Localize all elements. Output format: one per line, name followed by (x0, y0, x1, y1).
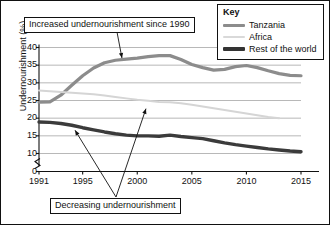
x-tick-label-2000: 2000 (120, 177, 154, 186)
chart-figure: Undernourishment (%) 010152025303540 199… (0, 0, 330, 225)
y-tick-labels: 010152025303540 (1, 1, 37, 225)
y-tick-label-15: 15 (3, 131, 37, 140)
series-line-rest-of-the-world (39, 122, 301, 152)
callout-decreasing-undernourishment: Decreasing undernourishment (50, 198, 181, 214)
axis-lines (37, 45, 319, 172)
y-tick-label-20: 20 (3, 113, 37, 122)
legend-items: TanzaniaAfricaRest of the world (223, 19, 319, 55)
y-tick-label-35: 35 (3, 60, 37, 69)
x-tick-label-1995: 1995 (66, 177, 100, 186)
y-tick-label-0: 0 (3, 167, 37, 176)
y-tick-label-40: 40 (3, 43, 37, 52)
x-tick-label-2015: 2015 (284, 177, 318, 186)
x-tick-label-2010: 2010 (229, 177, 263, 186)
series-lines (39, 56, 301, 152)
y-tick-label-10: 10 (3, 149, 37, 158)
legend-item-label: Tanzania (249, 21, 285, 30)
series-line-africa (39, 91, 279, 119)
legend-swatch-icon (223, 24, 245, 27)
legend-item-tanzania: Tanzania (223, 19, 319, 31)
y-tick-label-25: 25 (3, 96, 37, 105)
legend-item-rest-of-the-world: Rest of the world (223, 43, 319, 55)
legend-box: Key TanzaniaAfricaRest of the world (217, 4, 324, 60)
gridlines (39, 48, 301, 154)
y-tick-label-30: 30 (3, 78, 37, 87)
legend-item-label: Rest of the world (249, 45, 317, 54)
x-tick-label-2005: 2005 (175, 177, 209, 186)
legend-swatch-icon (223, 36, 245, 38)
legend-swatch-icon (223, 47, 245, 51)
legend-title: Key (223, 8, 319, 17)
series-line-tanzania (39, 56, 301, 103)
x-tick-label-1991: 1991 (22, 177, 56, 186)
legend-item-africa: Africa (223, 31, 319, 43)
callout-increased-undernourishment: Increased undernourishment since 1990 (24, 17, 195, 33)
legend-item-label: Africa (249, 33, 272, 42)
